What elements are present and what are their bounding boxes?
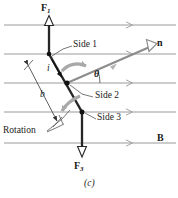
rotation-arrow-upper (62, 64, 86, 71)
leader-side-3 (85, 113, 96, 119)
label-rotation: Rotation (3, 126, 36, 136)
figure-caption: (c) (84, 179, 95, 189)
node-center (64, 80, 69, 85)
force-F1-arrowhead (45, 16, 54, 26)
force-F3-arrowhead (78, 147, 87, 158)
label-angle-theta: θ (94, 69, 99, 79)
field-line (4, 22, 176, 28)
label-force-F1: F1 (41, 3, 51, 15)
field-line (4, 51, 176, 57)
node-side-1-pivot (47, 52, 52, 57)
label-side-3: Side 3 (97, 113, 121, 123)
field-line (4, 109, 176, 115)
label-dimension-b: b (40, 90, 45, 100)
normal-vector-arrowhead (147, 40, 158, 52)
figure-canvas (0, 0, 178, 198)
label-force-F3: F3 (74, 161, 84, 173)
force-vector-F1 (45, 16, 54, 55)
field-line (4, 140, 176, 146)
leader-rotation-lower (47, 124, 64, 132)
force-vector-F3 (78, 112, 87, 157)
figure-torque-diagram: F1 F3 n B θ i b Side 1 Side 2 Side 3 Rot… (0, 0, 178, 198)
label-side-1: Side 1 (73, 40, 97, 50)
label-normal-n: n (157, 38, 163, 48)
leader-lines (47, 46, 96, 132)
label-side-2: Side 2 (95, 91, 119, 101)
node-side-3-pivot (80, 110, 85, 115)
label-current-i: i (47, 64, 50, 74)
current-arrow-i (52, 60, 62, 77)
field-line (4, 80, 176, 86)
label-field-B: B (157, 133, 164, 143)
